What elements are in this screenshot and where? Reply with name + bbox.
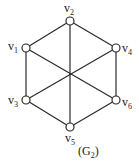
edge-v1-v2: [26, 21, 70, 48]
edge-v6-v5: [70, 100, 116, 127]
vertex-v1: [22, 44, 30, 52]
vertex-v5: [66, 123, 74, 131]
vertex-label-v2: v2: [64, 1, 74, 17]
vertex-label-v6: v6: [122, 95, 132, 111]
graph-caption: (G2): [78, 144, 99, 160]
edge-v5-v3: [26, 100, 70, 127]
vertex-v4: [112, 44, 120, 52]
vertex-label-v4: v4: [122, 41, 132, 57]
vertex-label-v5: v5: [65, 131, 75, 147]
vertex-label-v3: v3: [8, 93, 18, 109]
vertex-v2: [66, 17, 74, 25]
vertex-v6: [112, 96, 120, 104]
vertex-label-v1: v1: [8, 39, 18, 55]
edges-group: [26, 21, 116, 127]
edge-v2-v4: [70, 21, 116, 48]
vertex-v3: [22, 96, 30, 104]
graph-diagram: v1v2v3v4v5v6 (G2): [0, 0, 139, 166]
